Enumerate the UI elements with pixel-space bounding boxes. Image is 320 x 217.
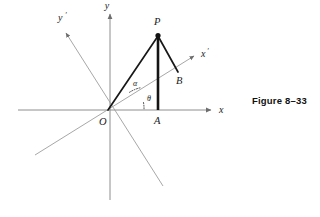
origin-label: O [99,116,107,127]
point-p-dot [155,33,160,38]
segment-pb [158,36,178,72]
figure-caption: Figure 8–33 [252,95,307,106]
x-prime-axis-label-group: x ′ [200,47,209,59]
y-prime-axis-label: y [57,12,63,23]
angle-theta-label: θ [147,94,151,103]
y-axis-label: y [104,0,110,11]
x-prime-axis-label: x [200,48,206,59]
x-prime-axis-line [35,56,194,155]
angle-alpha-label: α [133,79,138,88]
x-axis-label: x [218,104,224,115]
figure-root: y x y ′ x ′ O P A B α θ Figure 8–33 [0,0,320,217]
y-prime-mark: ′ [65,11,67,20]
coordinate-diagram: y x y ′ x ′ O P A B α θ [0,0,320,217]
point-b-label: B [176,75,183,86]
y-prime-axis-label-group: y ′ [57,11,67,23]
x-prime-mark: ′ [207,47,209,56]
point-a-label: A [153,115,161,126]
angle-theta-arc [144,103,145,110]
point-p-label: P [153,16,161,27]
